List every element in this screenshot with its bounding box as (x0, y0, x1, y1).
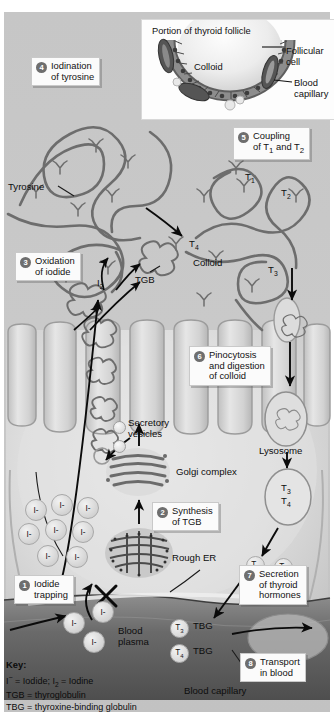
plasma-hormone-t4: T4 (170, 644, 189, 663)
step-4-callout[interactable]: 4 Iodination of tyrosine (31, 57, 100, 86)
key-legend: Key: I− = Iodide; I2 = Iodine TGB = thyr… (6, 659, 137, 713)
step-8-line2: in blood (260, 668, 300, 679)
iodide-bubble: I- (37, 545, 59, 567)
step-3-badge: 3 (20, 257, 31, 268)
lysosome-label: Lysosome (259, 446, 302, 457)
step-5-badge: 5 (238, 132, 249, 143)
step-5-callout[interactable]: 5 Coupling of T1 and T2 (233, 127, 310, 160)
iodide-bubble: I- (72, 521, 94, 543)
iodide-bubble: I- (51, 494, 73, 516)
blood-capillary-line2: capillary (294, 88, 328, 99)
key-line-2: TGB = thyroglobulin (6, 690, 137, 702)
step-1-line1: Iodide (34, 579, 68, 590)
iodide-bubble-plasma: I- (92, 601, 114, 623)
step-3-callout[interactable]: 3 Oxidation of iodide (15, 252, 81, 281)
step-5-line1: Coupling (253, 131, 304, 142)
step-3-line2: of iodide (35, 267, 75, 278)
blood-capillary-line1: Blood (294, 77, 318, 88)
iodide-bubble: I- (18, 523, 40, 545)
step-7-line1: Secretion (259, 569, 301, 580)
inset-colloid-label: Colloid (194, 62, 223, 73)
blood-plasma-label: Blood plasma (118, 626, 149, 648)
step-2-callout[interactable]: 2 Synthesis of TGB (152, 502, 219, 531)
step-4-badge: 4 (36, 62, 47, 73)
secretory-vesicles-label: Secretory vesicles (128, 418, 169, 440)
step-1-line2: trapping (34, 590, 68, 601)
iodide-bubble-plasma: I- (83, 631, 105, 653)
key-line-3: TBG = thyroxine-binding globulin (6, 702, 137, 714)
inset-follicular-cell-label: Follicular cell (286, 46, 324, 68)
step-7-badge: 7 (244, 570, 255, 581)
plasma-hormone-t3: T3 (170, 619, 189, 638)
thyroid-follicle-inset: Portion of thyroid follicle Colloid Foll… (141, 19, 334, 120)
iodide-bubble: I- (25, 499, 47, 521)
step-2-line1: Synthesis (172, 506, 213, 517)
step-4-line2: of tyrosine (51, 72, 94, 83)
golgi-label: Golgi complex (176, 467, 237, 478)
step-6-line3: of colloid (209, 371, 265, 382)
secretory-vesicle-dot (113, 440, 126, 453)
step-4-line1: Iodination (51, 61, 94, 72)
tbg-label-1: TBG (193, 621, 213, 632)
step-1-badge: 1 (19, 580, 30, 591)
vesicle-t4-label: T4 (281, 496, 291, 511)
secretory-vesicle-dot (113, 421, 126, 434)
follicular-cell-line2: cell (286, 56, 300, 67)
rough-er-label: Rough ER (172, 553, 216, 564)
step-6-line1: Pinocytosis (209, 350, 265, 361)
inset-blood-capillary-label: Blood capillary (294, 78, 328, 100)
iodide-bubble: I- (66, 546, 88, 568)
iodide-bubble-plasma: I- (63, 612, 85, 634)
inset-title: Portion of thyroid follicle (152, 26, 251, 36)
step-8-callout[interactable]: 8 Transport in blood (240, 653, 306, 682)
step-6-callout[interactable]: 6 Pinocytosis and digestion of colloid (189, 346, 271, 386)
follicular-cell-line1: Follicular (286, 45, 324, 56)
step-8-badge: 8 (245, 658, 256, 669)
tyrosine-label: Tyrosine (8, 182, 44, 193)
t1-label: T1 (245, 172, 255, 187)
step-5-line2: of T1 and T2 (253, 142, 304, 156)
step-3-line1: Oxidation (35, 256, 75, 267)
key-heading: Key: (6, 659, 137, 671)
step-1-callout[interactable]: 1 Iodide trapping (14, 575, 74, 604)
step-8-line1: Transport (260, 657, 300, 668)
step-2-badge: 2 (157, 507, 168, 518)
i2-label: I2 (97, 278, 103, 293)
t4-label: T4 (189, 239, 199, 254)
iodide-bubble: I- (77, 497, 99, 519)
t2-label: T2 (281, 188, 291, 203)
iodide-bubble: I- (45, 519, 67, 541)
step-7-callout[interactable]: 7 Secretion of thyroid hormones (239, 565, 307, 605)
step-7-line3: hormones (259, 590, 301, 601)
step-6-badge: 6 (194, 351, 205, 362)
colloid-label: Colloid (193, 258, 222, 269)
tgb-label: TGB (135, 275, 155, 286)
step-2-line2: of TGB (172, 517, 213, 528)
key-line-1: I− = Iodide; I2 = Iodine (6, 672, 137, 690)
tbg-label-2: TBG (193, 646, 213, 657)
blood-capillary-label: Blood capillary (184, 686, 246, 697)
figure-canvas: Portion of thyroid follicle Colloid Foll… (0, 0, 334, 718)
t3-label: T3 (268, 265, 278, 280)
